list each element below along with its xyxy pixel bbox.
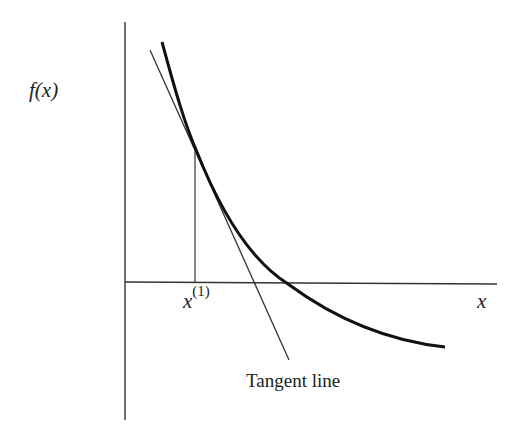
x1-superscript: (1) (192, 283, 210, 299)
y-axis-label: f(x) (29, 78, 58, 103)
x-axis (125, 282, 497, 284)
tangent-line (150, 50, 289, 360)
tangent-line-label: Tangent line (246, 370, 340, 392)
x1-base: x (183, 289, 192, 313)
x1-marker-label: x(1) (183, 287, 210, 314)
x-axis-label: x (477, 289, 486, 314)
